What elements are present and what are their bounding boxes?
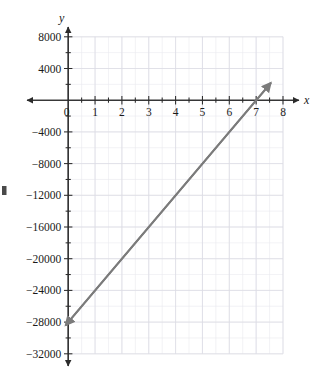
- y-tick-label: −32000: [26, 348, 61, 360]
- x-axis-tick-labels: 012345678: [64, 106, 286, 118]
- y-tick-label: −4000: [32, 126, 62, 138]
- x-tick-label: 4: [173, 106, 179, 118]
- x-tick-label: 8: [280, 106, 286, 118]
- y-tick-label: 4000: [38, 63, 61, 75]
- chart-figure: 012345678 80004000−4000−8000−12000−16000…: [0, 0, 319, 374]
- y-tick-label: −24000: [26, 284, 61, 296]
- x-tick-label: 3: [146, 106, 152, 118]
- y-tick-label: −12000: [26, 189, 61, 201]
- line-chart-plot: 012345678 80004000−4000−8000−12000−16000…: [0, 0, 319, 374]
- x-tick-label: 2: [119, 106, 125, 118]
- y-tick-label: −28000: [26, 316, 61, 328]
- x-tick-label: 1: [92, 106, 98, 118]
- y-tick-label: −8000: [32, 158, 62, 170]
- y-tick-label: 8000: [38, 31, 61, 43]
- x-axis-label: x: [303, 93, 310, 107]
- x-tick-label: 5: [200, 106, 206, 118]
- page-edge-artifact: [2, 186, 7, 195]
- x-tick-label: 0: [64, 106, 70, 118]
- x-tick-label: 7: [253, 106, 259, 118]
- y-axis-label: y: [58, 11, 65, 25]
- x-tick-label: 6: [226, 106, 232, 118]
- y-tick-label: −20000: [26, 253, 61, 265]
- y-tick-label: −16000: [26, 221, 61, 233]
